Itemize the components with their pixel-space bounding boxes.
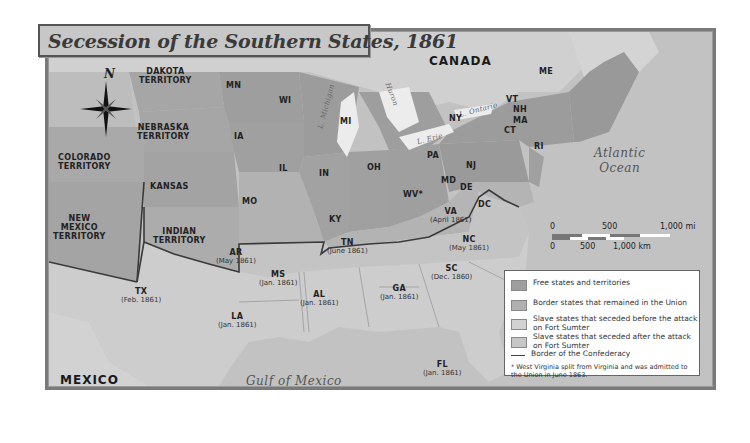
label-ga: GA(Jan. 1861) (380, 284, 419, 301)
scale-mi-1000: 1,000 mi (660, 222, 695, 231)
swatch-free (511, 280, 527, 291)
legend-footnote: * West Virginia split from Virginia and … (511, 363, 696, 379)
label-nc: NC(May 1861) (449, 235, 489, 252)
label-va: VA(April 1861) (430, 207, 472, 224)
legend-item-seceded-before: Slave states that seceded before the att… (511, 315, 698, 332)
scale-seg (640, 234, 670, 237)
atlantic-line2: Ocean (599, 161, 640, 175)
legend-item-confederacy-border: Border of the Confederacy (511, 350, 696, 359)
sc-date: (Dec. 1860) (431, 273, 472, 281)
legend-label: Border states that remained in the Union (533, 299, 698, 308)
tx-date: (Feb. 1861) (121, 296, 161, 304)
scale-seg-km (552, 237, 570, 240)
al-abbr: AL (313, 290, 325, 299)
scale-mi-500: 500 (602, 222, 617, 231)
nc-date: (May 1861) (449, 244, 489, 252)
dakota-line1: DAKOTA (146, 67, 184, 76)
label-canada: CANADA (429, 55, 492, 68)
legend-item-border-states: Border states that remained in the Union (511, 299, 698, 311)
fl-date: (Jan. 1861) (423, 369, 462, 377)
legend-label: Slave states that seceded after the atta… (533, 333, 698, 350)
tn-abbr: TN (341, 238, 354, 247)
label-ma: MA (513, 116, 528, 125)
label-kansas: KANSAS (150, 182, 189, 191)
legend-item-seceded-after: Slave states that seceded after the atta… (511, 333, 698, 350)
indian-line1: INDIAN (162, 227, 196, 236)
label-ct: CT (504, 126, 516, 135)
label-gulf-of-mexico: Gulf of Mexico (246, 374, 342, 387)
label-ar: AR(May 1861) (216, 248, 256, 265)
label-dc: DC (478, 200, 491, 209)
al-date: (Jan. 1861) (300, 299, 339, 307)
label-indian-territory: INDIANTERRITORY (153, 227, 206, 245)
scale-km-1000: 1,000 km (613, 242, 651, 251)
kansas (144, 152, 239, 207)
map-title: Secession of the Southern States, 1861 (48, 30, 458, 52)
label-tx: TX(Feb. 1861) (121, 287, 161, 304)
label-la: LA(Jan. 1861) (218, 312, 257, 329)
va-abbr: VA (445, 207, 457, 216)
label-mexico: MEXICO (60, 374, 119, 387)
label-fl: FL(Jan. 1861) (423, 360, 462, 377)
label-ky: KY (329, 215, 342, 224)
label-ia: IA (234, 132, 244, 141)
scale-km-0: 0 (550, 242, 555, 251)
label-mo: MO (242, 197, 257, 206)
colorado-line2: TERRITORY (58, 162, 111, 171)
ms-date: (Jan. 1861) (259, 279, 298, 287)
dakota-line2: TERRITORY (139, 76, 192, 85)
ar-date: (May 1861) (216, 257, 256, 265)
la-abbr: LA (231, 312, 243, 321)
label-wv: WV* (403, 190, 423, 199)
label-colorado-territory: COLORADOTERRITORY (58, 153, 111, 171)
nebraska-line1: NEBRASKA (138, 123, 189, 132)
la-date: (Jan. 1861) (218, 321, 257, 329)
swatch-border-states (511, 300, 527, 311)
label-wi: WI (279, 96, 291, 105)
label-vt: VT (506, 95, 518, 104)
label-new-mexico-territory: NEWMEXICOTERRITORY (53, 214, 106, 241)
label-in: IN (319, 169, 329, 178)
nm-line3: TERRITORY (53, 232, 106, 241)
scale-seg-km (570, 237, 588, 240)
label-atlantic: Atlantic Ocean (594, 146, 645, 176)
indian-line2: TERRITORY (153, 236, 206, 245)
scale-seg-km (606, 237, 624, 240)
label-al: AL(Jan. 1861) (300, 290, 339, 307)
tn-date: (June 1861) (327, 247, 368, 255)
line-confederacy-border (511, 355, 525, 356)
label-nj: NJ (466, 161, 476, 170)
label-md: MD (441, 176, 456, 185)
nm-line2: MEXICO (61, 223, 98, 232)
tx-abbr: TX (135, 287, 147, 296)
scale-mi-0: 0 (550, 222, 555, 231)
legend-label: Slave states that seceded before the att… (533, 315, 698, 332)
label-il: IL (279, 164, 288, 173)
colorado-line1: COLORADO (58, 153, 110, 162)
scale-bar: 0 500 1,000 mi 0 500 1,000 km (550, 222, 710, 262)
legend-label: Border of the Confederacy (531, 350, 696, 359)
ms-abbr: MS (271, 270, 285, 279)
nc-abbr: NC (462, 235, 475, 244)
nm-line1: NEW (68, 214, 90, 223)
label-dakota-territory: DAKOTATERRITORY (139, 67, 192, 85)
compass-north-label: N (104, 70, 115, 79)
label-ny: NY (449, 114, 462, 123)
swatch-seceded-before (511, 319, 527, 330)
label-tn: TN(June 1861) (327, 238, 368, 255)
label-mi: MI (340, 117, 352, 126)
label-oh: OH (367, 163, 381, 172)
atlantic-line1: Atlantic (594, 146, 645, 160)
ia (229, 122, 304, 172)
label-pa: PA (427, 151, 439, 160)
legend-item-free: Free states and territories (511, 279, 698, 291)
scale-km-500: 500 (580, 242, 595, 251)
sc-abbr: SC (446, 264, 458, 273)
ga-date: (Jan. 1861) (380, 293, 419, 301)
label-ms: MS(Jan. 1861) (259, 270, 298, 287)
legend-label: Free states and territories (533, 279, 698, 288)
ar-abbr: AR (230, 248, 243, 257)
map-title-box: Secession of the Southern States, 1861 (38, 24, 370, 57)
ga-abbr: GA (393, 284, 406, 293)
label-me: ME (539, 67, 553, 76)
